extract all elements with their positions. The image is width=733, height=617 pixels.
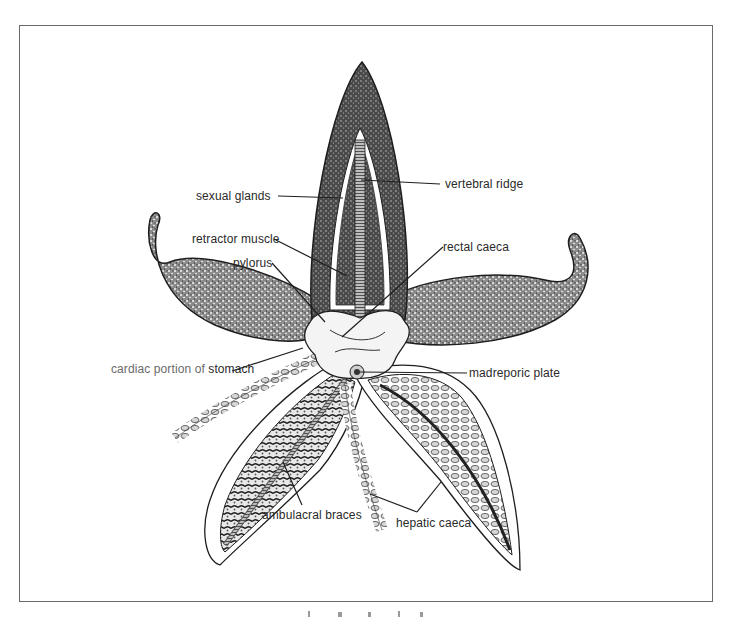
label-cardiac-suffix: stomach — [208, 362, 254, 376]
label-pylorus: pylorus — [233, 256, 272, 270]
label-cardiac-portion-of-stomach: cardiac portion of stomach — [111, 362, 254, 376]
label-sexual-glands: sexual glands — [196, 189, 271, 203]
label-hepatic-caeca: hepatic caeca — [396, 516, 471, 530]
starfish-illustration — [0, 0, 733, 617]
lower-right-arm — [355, 365, 520, 570]
label-ambulacral-braces: ambulacral braces — [262, 508, 362, 522]
label-vertebral-ridge: vertebral ridge — [445, 177, 523, 191]
label-retractor-muscle: retractor muscle — [192, 232, 280, 246]
cutoff-caption-fragments — [308, 611, 423, 617]
label-cardiac-prefix: cardiac portion of — [111, 362, 208, 376]
top-arm — [311, 62, 408, 320]
label-madreporic-plate: madreporic plate — [469, 366, 560, 380]
label-rectal-caeca: rectal caeca — [443, 240, 509, 254]
